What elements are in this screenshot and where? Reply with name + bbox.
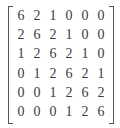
matrix-cell-r0-c0: 6 xyxy=(13,6,29,25)
right-bracket xyxy=(109,6,114,124)
matrix-cell-r1-c4: 0 xyxy=(77,25,93,44)
matrix-cell-r5-c2: 0 xyxy=(45,103,61,122)
matrix-cell-r5-c5: 6 xyxy=(93,103,109,122)
matrix-cell-r3-c0: 0 xyxy=(13,64,29,83)
matrix-grid: 6 2 1 0 0 0 2 6 2 1 0 0 1 2 6 2 1 0 0 1 … xyxy=(13,6,109,122)
matrix-cell-r5-c1: 0 xyxy=(29,103,45,122)
matrix-cell-r4-c3: 2 xyxy=(61,83,77,102)
matrix-cell-r0-c5: 0 xyxy=(93,6,109,25)
matrix: 6 2 1 0 0 0 2 6 2 1 0 0 1 2 6 2 1 0 0 1 … xyxy=(8,6,114,122)
matrix-cell-r3-c3: 6 xyxy=(61,64,77,83)
matrix-cell-r3-c4: 2 xyxy=(77,64,93,83)
matrix-cell-r4-c0: 0 xyxy=(13,83,29,102)
matrix-cell-r3-c1: 1 xyxy=(29,64,45,83)
matrix-cell-r4-c2: 1 xyxy=(45,83,61,102)
matrix-cell-r3-c2: 2 xyxy=(45,64,61,83)
matrix-cell-r4-c5: 2 xyxy=(93,83,109,102)
matrix-cell-r0-c3: 0 xyxy=(61,6,77,25)
matrix-cell-r1-c3: 1 xyxy=(61,25,77,44)
matrix-cell-r4-c4: 6 xyxy=(77,83,93,102)
matrix-cell-r2-c4: 1 xyxy=(77,45,93,64)
matrix-cell-r3-c5: 1 xyxy=(93,64,109,83)
matrix-cell-r5-c0: 0 xyxy=(13,103,29,122)
matrix-cell-r5-c4: 2 xyxy=(77,103,93,122)
matrix-cell-r0-c1: 2 xyxy=(29,6,45,25)
matrix-cell-r1-c1: 6 xyxy=(29,25,45,44)
matrix-cell-r2-c1: 2 xyxy=(29,45,45,64)
matrix-cell-r2-c0: 1 xyxy=(13,45,29,64)
matrix-cell-r1-c5: 0 xyxy=(93,25,109,44)
matrix-cell-r2-c2: 6 xyxy=(45,45,61,64)
matrix-cell-r5-c3: 1 xyxy=(61,103,77,122)
matrix-cell-r4-c1: 0 xyxy=(29,83,45,102)
matrix-cell-r1-c2: 2 xyxy=(45,25,61,44)
matrix-cell-r1-c0: 2 xyxy=(13,25,29,44)
matrix-cell-r2-c3: 2 xyxy=(61,45,77,64)
matrix-cell-r2-c5: 0 xyxy=(93,45,109,64)
matrix-cell-r0-c4: 0 xyxy=(77,6,93,25)
matrix-cell-r0-c2: 1 xyxy=(45,6,61,25)
